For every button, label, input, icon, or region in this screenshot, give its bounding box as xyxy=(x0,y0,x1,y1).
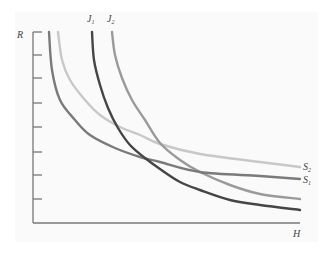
x-axis-label: H xyxy=(292,228,301,239)
curve-j1 xyxy=(92,32,300,210)
curves xyxy=(49,32,300,210)
s1-label: S1 xyxy=(303,174,311,186)
s2-label: S2 xyxy=(303,161,311,173)
j1-label: J1 xyxy=(87,13,94,25)
indifference-curve-chart: R H J1 J2 S2 S1 xyxy=(0,0,329,253)
y-axis xyxy=(33,32,42,223)
y-axis-label: R xyxy=(16,29,23,40)
curve-j2 xyxy=(112,32,300,199)
j2-label: J2 xyxy=(107,13,114,25)
